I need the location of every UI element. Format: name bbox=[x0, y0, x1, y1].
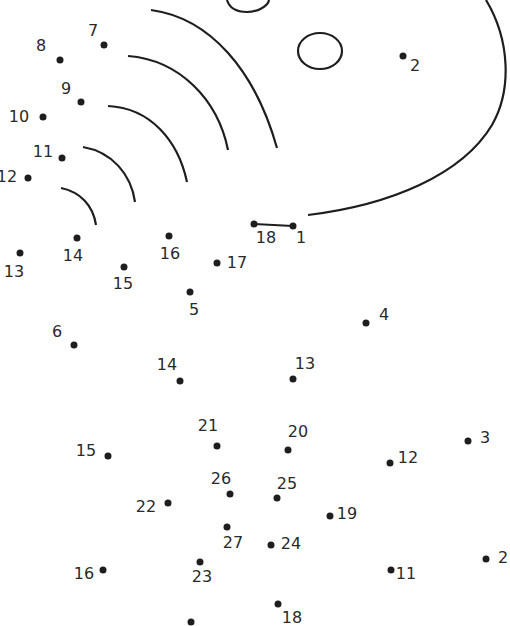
dot-point bbox=[224, 524, 231, 531]
arc-3 bbox=[108, 106, 187, 182]
dot-number-label: 13 bbox=[4, 264, 24, 280]
dot-number-label: 13 bbox=[295, 356, 315, 372]
dot-number-label: 2 bbox=[498, 550, 508, 566]
dot-point bbox=[251, 221, 258, 228]
eye-left bbox=[227, 0, 269, 12]
arc-4 bbox=[83, 147, 135, 202]
dot-point bbox=[100, 567, 107, 574]
dot-point bbox=[101, 42, 108, 49]
dot-number-label: 1 bbox=[296, 230, 306, 246]
dot-number-label: 8 bbox=[36, 38, 46, 54]
dot-number-label: 23 bbox=[192, 569, 212, 585]
dot-point bbox=[268, 542, 275, 549]
dot-point bbox=[197, 559, 204, 566]
dot-number-label: 2 bbox=[410, 58, 420, 74]
dot-number-label: 18 bbox=[256, 230, 276, 246]
dot-point bbox=[74, 235, 81, 242]
mouth-line bbox=[254, 224, 293, 226]
puzzle-outline-drawing bbox=[0, 0, 510, 626]
dot-number-label: 17 bbox=[227, 255, 247, 271]
dot-number-label: 19 bbox=[337, 506, 357, 522]
eye-right bbox=[298, 33, 342, 69]
dot-number-label: 15 bbox=[76, 443, 96, 459]
dot-number-label: 15 bbox=[113, 276, 133, 292]
dot-point bbox=[483, 556, 490, 563]
dot-number-label: 22 bbox=[136, 499, 156, 515]
dot-number-label: 26 bbox=[211, 471, 231, 487]
dot-point bbox=[227, 491, 234, 498]
dot-number-label: 20 bbox=[288, 424, 308, 440]
dot-point bbox=[363, 320, 370, 327]
dot-number-label: 25 bbox=[277, 476, 297, 492]
dot-point bbox=[177, 378, 184, 385]
arc-1 bbox=[151, 10, 277, 148]
dot-number-label: 24 bbox=[281, 536, 301, 552]
dot-number-label: 21 bbox=[198, 418, 218, 434]
dot-number-label: 4 bbox=[379, 307, 389, 323]
arc-5 bbox=[61, 188, 96, 225]
dot-point bbox=[121, 264, 128, 271]
dot-number-label: 10 bbox=[9, 109, 29, 125]
dot-number-label: 16 bbox=[160, 246, 180, 262]
dot-point bbox=[188, 619, 195, 626]
dot-point bbox=[327, 513, 334, 520]
dot-point bbox=[400, 53, 407, 60]
dot-number-label: 16 bbox=[74, 566, 94, 582]
dot-number-label: 6 bbox=[52, 324, 62, 340]
dot-point bbox=[388, 567, 395, 574]
dot-number-label: 27 bbox=[223, 535, 243, 551]
dot-point bbox=[274, 495, 281, 502]
dot-number-label: 14 bbox=[63, 248, 83, 264]
dot-point bbox=[187, 289, 194, 296]
dot-point bbox=[57, 57, 64, 64]
dot-number-label: 12 bbox=[0, 169, 17, 185]
dot-number-label: 7 bbox=[88, 23, 98, 39]
dot-number-label: 9 bbox=[61, 81, 71, 97]
dot-point bbox=[59, 155, 66, 162]
arc-2 bbox=[128, 56, 228, 150]
dot-point bbox=[166, 233, 173, 240]
dot-point bbox=[214, 443, 221, 450]
dot-number-label: 18 bbox=[282, 610, 302, 626]
dot-point bbox=[214, 260, 221, 267]
dot-number-label: 11 bbox=[396, 566, 416, 582]
dot-number-label: 12 bbox=[398, 450, 418, 466]
dot-point bbox=[25, 175, 32, 182]
dot-number-label: 11 bbox=[33, 144, 53, 160]
dot-number-label: 5 bbox=[189, 302, 199, 318]
dot-point bbox=[290, 376, 297, 383]
dot-point bbox=[165, 500, 172, 507]
dot-point bbox=[40, 114, 47, 121]
dot-point bbox=[465, 438, 472, 445]
head-outline bbox=[308, 0, 506, 215]
dot-point bbox=[285, 447, 292, 454]
dot-point bbox=[71, 342, 78, 349]
dot-point bbox=[387, 460, 394, 467]
dot-point bbox=[78, 99, 85, 106]
dot-point bbox=[275, 601, 282, 608]
dot-point bbox=[105, 453, 112, 460]
dot-point bbox=[17, 250, 24, 257]
dot-number-label: 3 bbox=[480, 430, 490, 446]
dot-number-label: 14 bbox=[157, 357, 177, 373]
